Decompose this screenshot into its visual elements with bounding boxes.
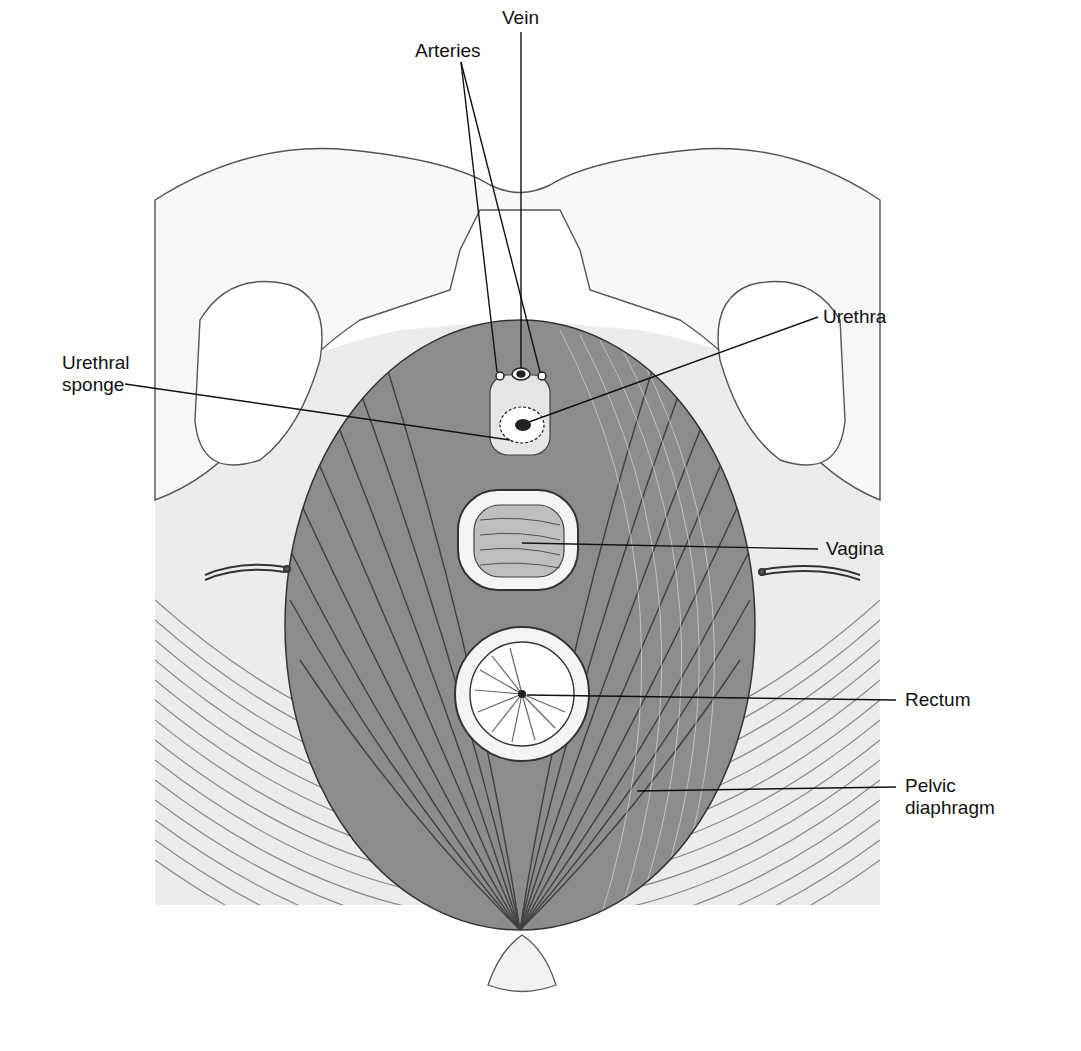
label-urethral-sponge-line2: sponge	[62, 374, 130, 396]
label-pelvic-diaphragm-line1: Pelvic	[905, 775, 995, 797]
label-pelvic-diaphragm: Pelvic diaphragm	[905, 775, 995, 819]
vagina-structure	[458, 490, 578, 590]
rectum-structure	[455, 627, 589, 761]
urethra-structure	[490, 375, 550, 455]
label-pelvic-diaphragm-line2: diaphragm	[905, 797, 995, 819]
pelvic-floor-diagram: Vein Arteries Urethra Urethral sponge Va…	[0, 0, 1081, 1051]
label-urethral-sponge: Urethral sponge	[62, 352, 130, 396]
label-arteries: Arteries	[415, 40, 480, 62]
label-vein: Vein	[502, 7, 539, 29]
coccyx	[488, 935, 556, 992]
label-rectum: Rectum	[905, 689, 970, 711]
label-vagina: Vagina	[826, 538, 884, 560]
label-urethra: Urethra	[823, 306, 886, 328]
label-urethral-sponge-line1: Urethral	[62, 352, 130, 374]
anatomy-illustration	[0, 0, 1081, 1051]
